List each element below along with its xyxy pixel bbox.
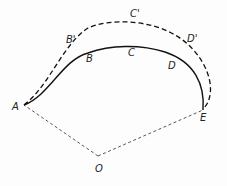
label-c-prime: C' <box>130 8 140 19</box>
label-a: A <box>11 101 19 112</box>
label-b-prime: B' <box>66 34 76 45</box>
label-c: C <box>128 47 135 58</box>
diagram-canvas: A B C D E B' C' D' O <box>0 0 227 186</box>
label-d: D <box>168 60 176 71</box>
label-d-prime: D' <box>187 33 197 44</box>
radius-line-oe <box>98 110 203 156</box>
label-o: O <box>95 163 103 174</box>
dashed-curve-prime <box>24 22 211 108</box>
label-b: B <box>86 53 93 64</box>
radius-line-oa <box>24 105 98 156</box>
curve-diagram: A B C D E B' C' D' O <box>0 0 227 186</box>
label-e: E <box>200 112 207 123</box>
solid-curve <box>24 46 203 110</box>
